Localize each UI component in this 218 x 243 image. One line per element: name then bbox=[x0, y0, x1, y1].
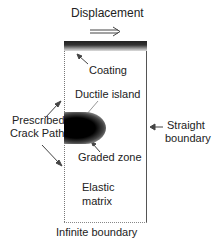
prescribed-label-2: Crack Path bbox=[10, 127, 64, 140]
prescribed-label-1: Prescribed bbox=[12, 114, 65, 127]
straight-label-2: boundary bbox=[165, 132, 211, 145]
infinite-boundary-label: Infinite boundary bbox=[56, 226, 137, 239]
displacement-arrow-icon bbox=[90, 27, 120, 36]
infinite-boundary-line bbox=[64, 218, 147, 223]
coating-label: Coating bbox=[89, 64, 127, 77]
elastic-label-1: Elastic bbox=[82, 181, 114, 194]
ductile-island-label: Ductile island bbox=[75, 88, 140, 101]
straight-boundary-arrow-icon bbox=[150, 124, 163, 130]
crack-path-arrow-down-icon bbox=[42, 145, 62, 166]
graded-zone-label: Graded zone bbox=[78, 151, 142, 164]
straight-label-1: Straight bbox=[167, 119, 205, 132]
ductile-island-shape bbox=[64, 112, 106, 144]
coating-layer bbox=[64, 41, 147, 51]
elastic-label-2: matrix bbox=[82, 195, 112, 208]
